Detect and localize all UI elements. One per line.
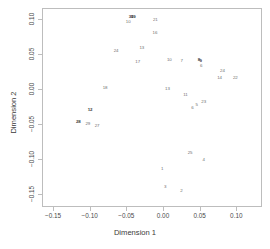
y-axis-tick xyxy=(38,159,42,160)
data-point-label: 24 xyxy=(220,69,225,73)
data-point-label: 16 xyxy=(153,31,158,35)
data-point-label: 29 xyxy=(85,122,90,126)
x-axis-tick-label: −0.05 xyxy=(118,212,134,219)
x-axis-tick xyxy=(126,207,127,211)
y-axis-tick-label: −0.10 xyxy=(28,148,35,170)
x-axis-tick-label: 0.05 xyxy=(193,212,205,219)
x-axis-tick-label: −0.15 xyxy=(45,212,61,219)
data-point-label: 13 xyxy=(139,46,144,50)
x-axis-tick xyxy=(236,207,237,211)
data-point-label: 22 xyxy=(233,75,238,79)
data-point-label: 18 xyxy=(103,86,108,90)
x-axis-title: Dimension 1 xyxy=(0,228,270,237)
plot-area xyxy=(42,8,262,207)
x-axis-tick xyxy=(163,207,164,211)
data-point-label: 25 xyxy=(188,150,193,154)
y-axis-tick-label: 0.10 xyxy=(28,8,35,30)
data-point-label: 10 xyxy=(126,20,131,24)
data-point-label: 6 xyxy=(191,105,193,109)
x-axis-tick xyxy=(200,207,201,211)
data-point-label: 2 xyxy=(180,189,182,193)
data-point-label: 3 xyxy=(164,185,166,189)
x-axis-tick xyxy=(90,207,91,211)
data-point-label: 21 xyxy=(153,18,158,22)
x-axis-tick-label: −0.10 xyxy=(82,212,98,219)
x-axis-tick-label: 0.10 xyxy=(230,212,242,219)
x-axis-tick xyxy=(53,207,54,211)
y-axis-tick xyxy=(38,124,42,125)
y-axis-tick-label: −0.15 xyxy=(28,183,35,205)
data-point-label: 11 xyxy=(183,93,187,97)
data-point-label: 10 xyxy=(167,58,172,62)
data-point-label: 12 xyxy=(88,108,93,112)
data-point-label: 28 xyxy=(76,120,81,124)
y-axis-tick xyxy=(38,194,42,195)
data-point-label: 14 xyxy=(217,76,222,80)
data-point-label: 1 xyxy=(161,167,163,171)
data-point-label: 7 xyxy=(181,59,183,63)
y-axis-tick-label: −0.05 xyxy=(28,113,35,135)
data-point-label: 23 xyxy=(201,100,206,104)
data-point-label: 5 xyxy=(196,102,198,106)
data-point-label: 19 xyxy=(131,15,136,19)
data-point-label: 6 xyxy=(200,63,202,67)
data-point-label: 4 xyxy=(203,157,205,161)
x-axis-tick-label: 0.00 xyxy=(157,212,169,219)
y-axis-tick-label: 0.05 xyxy=(28,43,35,65)
data-point-label: 13 xyxy=(165,87,170,91)
y-axis-tick xyxy=(38,19,42,20)
scatter-plot-figure: 3019102116132417107896241422181311235612… xyxy=(0,0,270,249)
y-axis-tick xyxy=(38,89,42,90)
y-axis-tick-label: 0.00 xyxy=(28,78,35,100)
data-point-label: 17 xyxy=(135,60,140,64)
y-axis-title: Dimension 2 xyxy=(9,53,18,173)
data-point-label: 24 xyxy=(114,49,119,53)
data-point-label: 27 xyxy=(95,124,100,128)
y-axis-tick xyxy=(38,54,42,55)
